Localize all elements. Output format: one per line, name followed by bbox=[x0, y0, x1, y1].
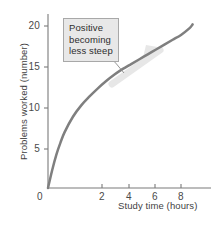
y-axis-title: Problems worked (number) bbox=[18, 27, 29, 177]
curve-annotation-box: Positive becoming less steep bbox=[63, 18, 119, 62]
annotation-line-2: becoming bbox=[69, 34, 114, 46]
y-tick-label-15: 15 bbox=[22, 62, 40, 72]
chart-figure: Problems worked (number) Study time (hou… bbox=[0, 0, 214, 225]
x-tick-label-4: 4 bbox=[122, 192, 136, 202]
annotation-line-1: Positive bbox=[69, 22, 114, 34]
annotation-line-3: less steep bbox=[69, 45, 114, 57]
y-tick-label-20: 20 bbox=[22, 21, 40, 31]
y-tick-label-10: 10 bbox=[22, 103, 40, 113]
y-axis-ticks bbox=[44, 26, 48, 149]
x-tick-label-6: 6 bbox=[148, 192, 162, 202]
x-tick-label-0: 0 bbox=[33, 192, 47, 202]
x-tick-label-8: 8 bbox=[174, 192, 188, 202]
x-tick-label-2: 2 bbox=[95, 192, 109, 202]
y-tick-label-5: 5 bbox=[22, 144, 40, 154]
x-axis-ticks bbox=[102, 184, 181, 188]
